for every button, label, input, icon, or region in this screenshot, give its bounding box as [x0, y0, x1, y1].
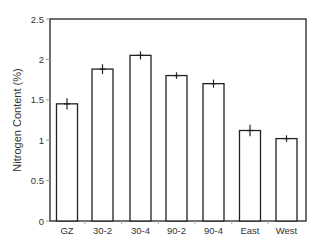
y-tick-label: 0.5 [31, 175, 44, 186]
x-tick-label: 90-4 [204, 225, 223, 236]
x-axis: GZ30-230-490-290-4EastWest [60, 221, 297, 236]
x-tick-label: West [276, 225, 298, 236]
x-tick-label: GZ [60, 225, 73, 236]
y-tick-label: 2 [39, 54, 44, 65]
bar-chart: 00.511.522.5 GZ30-230-490-290-4EastWest … [0, 0, 317, 248]
x-tick-label: East [240, 225, 259, 236]
bar-gz [57, 98, 78, 221]
x-tick-label: 30-2 [93, 225, 112, 236]
y-tick-label: 2.5 [31, 14, 44, 25]
bar-90-2 [166, 72, 187, 221]
x-tick-label: 30-4 [131, 225, 150, 236]
bar-30-4 [130, 51, 151, 221]
y-axis: 00.511.522.5 [31, 14, 50, 227]
bar-west [276, 135, 297, 221]
x-tick-label: 90-2 [167, 225, 186, 236]
bars [57, 51, 298, 221]
y-tick-label: 1 [39, 135, 44, 146]
bar-30-2 [92, 64, 113, 221]
y-tick-label: 0 [39, 216, 44, 227]
bar-east [240, 125, 261, 221]
y-tick-label: 1.5 [31, 94, 44, 105]
y-axis-label: Nitrogen Content (%) [11, 68, 23, 171]
bar-90-4 [203, 80, 224, 221]
